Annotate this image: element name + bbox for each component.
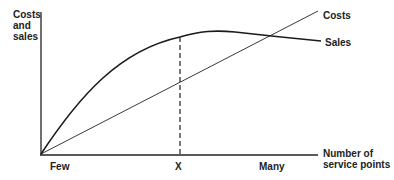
costs-line xyxy=(41,11,318,154)
sales-series-label: Sales xyxy=(325,37,351,48)
x-tick-many: Many xyxy=(259,161,285,172)
costs-series-label: Costs xyxy=(323,10,351,21)
x-axis-label: Number of service points xyxy=(323,148,390,170)
x-tick-few: Few xyxy=(50,161,69,172)
y-axis-label: Costs and sales xyxy=(13,9,41,42)
x-tick-x: X xyxy=(175,161,182,172)
sales-curve xyxy=(41,31,321,154)
